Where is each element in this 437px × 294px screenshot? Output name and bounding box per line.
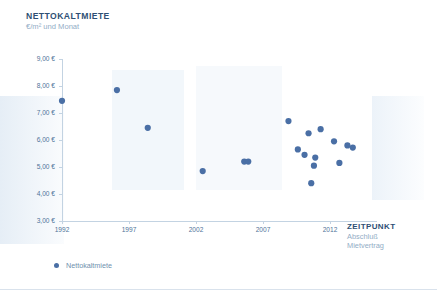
data-point: [350, 144, 356, 150]
data-point: [301, 152, 307, 158]
x-axis-title: ZEITPUNKT: [347, 222, 396, 232]
y-axis-tick-label: 9,00 €: [37, 55, 56, 62]
data-point: [336, 160, 342, 166]
y-axis-tick-label: 3,00 €: [37, 217, 56, 224]
x-axis-tick-label: 1997: [122, 226, 137, 233]
data-point: [114, 87, 120, 93]
y-axis: 3,00 €4,00 €5,00 €6,00 €7,00 €8,00 €9,00…: [37, 55, 62, 224]
x-axis-tick-label: 2002: [189, 226, 204, 233]
x-axis-tick-label: 2007: [256, 226, 271, 233]
data-point: [318, 126, 324, 132]
x-axis-subtitle-line1: Abschluß: [347, 232, 396, 241]
y-axis-tick-label: 5,00 €: [37, 163, 56, 170]
x-axis: 19921997200220072012: [55, 221, 377, 233]
x-axis-tick-label: 2012: [323, 226, 338, 233]
data-point: [308, 180, 314, 186]
data-point: [145, 125, 151, 131]
x-axis-tick-label: 1992: [55, 226, 70, 233]
legend-marker-icon: [54, 263, 59, 268]
y-axis-tick-label: 6,00 €: [37, 136, 56, 143]
x-axis-caption-block: ZEITPUNKT Abschluß Mietvertrag: [347, 222, 396, 251]
y-axis-tick-label: 8,00 €: [37, 82, 56, 89]
figure-bottom-rule: [0, 289, 437, 290]
data-point: [305, 130, 311, 136]
chart-legend: Nettokaltmiete: [54, 261, 112, 270]
data-point: [331, 138, 337, 144]
chart-card: NETTOKALTMIETE €/m² und Monat 3,00 €4,00…: [0, 0, 437, 294]
data-point: [285, 118, 291, 124]
data-point: [59, 98, 65, 104]
y-axis-tick-label: 4,00 €: [37, 190, 56, 197]
data-point: [200, 168, 206, 174]
x-axis-subtitle-line2: Mietvertrag: [347, 241, 396, 250]
data-point: [245, 159, 251, 165]
data-point: [312, 154, 318, 160]
data-points: [59, 87, 356, 186]
legend-item-label: Nettokaltmiete: [66, 261, 112, 270]
data-point: [311, 163, 317, 169]
data-point: [295, 146, 301, 152]
data-point: [344, 142, 350, 148]
y-axis-tick-label: 7,00 €: [37, 109, 56, 116]
